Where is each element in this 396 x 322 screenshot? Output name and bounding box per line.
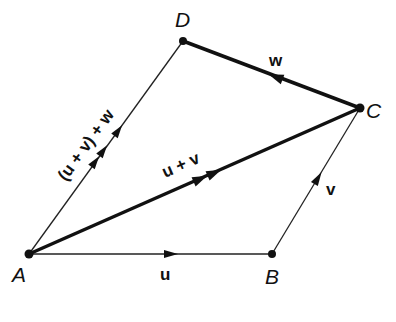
vertex-a-dot (25, 250, 34, 259)
arrow-w-icon (267, 69, 285, 84)
vertex-a-label: A (10, 263, 26, 286)
vector-w-label: w (268, 51, 283, 70)
vector-v-label: v (326, 180, 336, 199)
vector-u-label: u (160, 265, 170, 284)
arrow-u-icon (164, 250, 178, 258)
vertex-c-label: C (366, 99, 382, 122)
vector-u-plus-v-label: u + v (159, 148, 203, 181)
vertex-b-dot (268, 250, 276, 258)
vector-diagram: A B C D u v w u + v (u + v) + w (0, 0, 396, 322)
vertex-d-label: D (175, 8, 190, 31)
arrow-v-icon (311, 170, 325, 186)
vertex-d-dot (179, 37, 187, 45)
vertex-b-label: B (265, 265, 279, 288)
vertex-c-dot (356, 104, 365, 113)
